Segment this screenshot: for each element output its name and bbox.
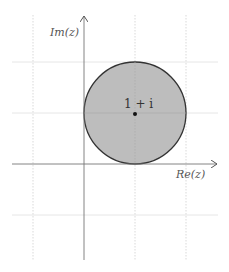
real-axis-label: Re(z) xyxy=(175,168,205,181)
complex-plane-diagram: 1 + i Im(z) Re(z) xyxy=(0,0,229,272)
imaginary-axis-label: Im(z) xyxy=(49,26,79,39)
center-point xyxy=(133,112,137,116)
center-label: 1 + i xyxy=(124,97,153,111)
